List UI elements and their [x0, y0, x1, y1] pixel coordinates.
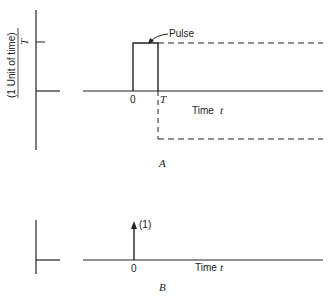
figure-b: (1) 0 Time t B	[36, 219, 323, 293]
y-axis-label: (1 Unit of time)	[6, 28, 18, 98]
pulse-impulse-diagram: Pulse (1 Unit of time) T 0 T Time t A (1…	[0, 0, 335, 299]
a-zero-label: 0	[130, 94, 136, 105]
figure-a: Pulse (1 Unit of time) T 0 T Time t A	[6, 10, 323, 169]
y-axis-label-denominator: T	[18, 38, 30, 45]
pulse-label: Pulse	[169, 28, 194, 39]
b-zero-label: 0	[131, 263, 137, 274]
b-time-var: t	[220, 261, 224, 273]
impulse-arrowhead	[131, 221, 137, 229]
pulse-shape	[133, 43, 158, 91]
a-time-var: t	[220, 104, 224, 116]
impulse-weight-label: (1)	[139, 219, 151, 230]
panel-label-a: A	[158, 157, 166, 169]
panel-label-b: B	[159, 281, 166, 293]
a-time-label: Time	[192, 105, 214, 116]
y-axis-label-numerator: (1 Unit of time)	[6, 32, 17, 98]
a-T-label: T	[160, 93, 167, 105]
b-time-label: Time	[195, 262, 217, 273]
